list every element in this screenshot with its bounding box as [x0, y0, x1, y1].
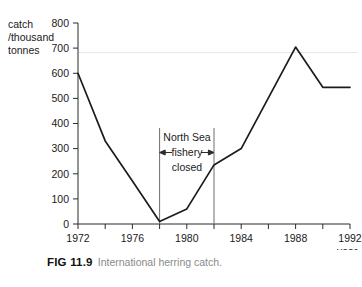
- y-axis-title-line-2: /thousand: [8, 31, 54, 43]
- y-axis-ticks: [73, 23, 78, 224]
- y-tick-label-800: 800: [51, 17, 69, 29]
- annotation-line-3: closed: [172, 161, 203, 173]
- figure-caption: FIG 11.9International herring catch.: [47, 256, 222, 268]
- x-axis-ticks: [78, 224, 350, 229]
- y-tick-label-300: 300: [51, 142, 69, 154]
- x-tick-label-1976: 1976: [121, 232, 145, 244]
- herring-catch-line-chart: 0 100 200 300 400 500 600 700 800 catch …: [0, 0, 362, 250]
- figure-number: FIG 11.9: [47, 256, 93, 268]
- y-tick-label-0: 0: [63, 218, 69, 230]
- x-tick-label-1992: 1992: [338, 232, 362, 244]
- chart-plot-area: 0 100 200 300 400 500 600 700 800 catch …: [0, 0, 362, 250]
- x-tick-label-1984: 1984: [230, 232, 254, 244]
- x-axis-tick-labels: 1972 1976 1980 1984 1988 1992: [66, 232, 362, 244]
- y-axis-title: catch /thousand tonnes: [8, 18, 54, 56]
- closure-right-arrow: [201, 150, 214, 155]
- y-tick-label-200: 200: [51, 168, 69, 180]
- figure-caption-text: International herring catch.: [98, 256, 222, 268]
- closure-left-arrow: [160, 150, 172, 155]
- annotation-line-2: fishery: [172, 146, 204, 158]
- x-tick-label-1980: 1980: [175, 232, 199, 244]
- y-tick-label-600: 600: [51, 67, 69, 79]
- y-tick-label-500: 500: [51, 92, 69, 104]
- y-tick-label-100: 100: [51, 193, 69, 205]
- figure-container: 0 100 200 300 400 500 600 700 800 catch …: [0, 0, 362, 287]
- x-axis-title: year: [337, 245, 358, 250]
- annotation-line-1: North Sea: [163, 131, 210, 143]
- y-axis-title-line-3: tonnes: [8, 44, 40, 56]
- y-axis-tick-labels: 0 100 200 300 400 500 600 700 800: [51, 17, 69, 230]
- y-axis-title-line-1: catch: [8, 18, 33, 30]
- y-tick-label-700: 700: [51, 42, 69, 54]
- x-tick-label-1988: 1988: [284, 232, 308, 244]
- y-tick-label-400: 400: [51, 117, 69, 129]
- x-tick-label-1972: 1972: [66, 232, 90, 244]
